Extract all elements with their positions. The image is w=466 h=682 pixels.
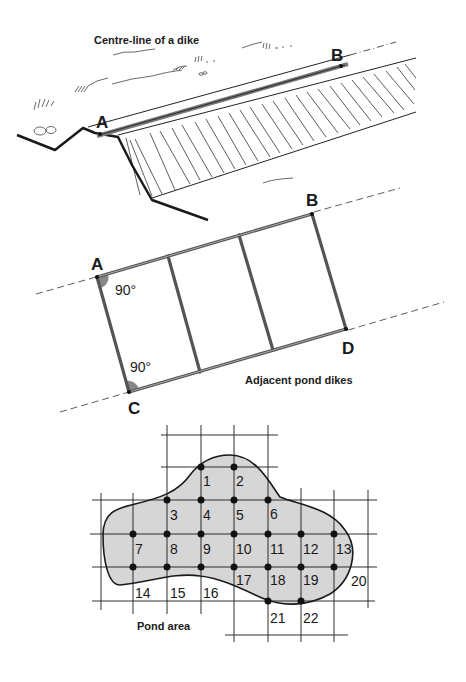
- grid-label: 12: [303, 541, 319, 557]
- grid-label: 6: [270, 506, 278, 522]
- dike-centre-line-caption: Centre-line of a dike: [94, 34, 199, 46]
- grid-label: 2: [236, 473, 244, 489]
- angle-c-label: 90°: [130, 359, 151, 375]
- grid-label: 15: [170, 585, 186, 601]
- grid-label: 20: [351, 573, 367, 589]
- diagram-canvas: Centre-line of a dike: [0, 0, 466, 682]
- dike-point-b-label: B: [331, 46, 343, 65]
- grid-label: 14: [135, 585, 151, 601]
- adjacent-pond-dikes-caption: Adjacent pond dikes: [245, 374, 353, 386]
- grid-label: 5: [236, 507, 244, 523]
- grid-label: 11: [270, 541, 285, 557]
- angle-a-label: 90°: [115, 282, 136, 298]
- grid-label: 4: [203, 507, 211, 523]
- grid-label: 10: [236, 541, 252, 557]
- grid-label: 3: [170, 507, 178, 523]
- grid-label: 7: [135, 541, 143, 557]
- slope-hatching: [126, 64, 416, 196]
- grid-label: 18: [270, 572, 286, 588]
- dike-perspective-figure: Centre-line of a dike: [17, 34, 416, 220]
- pond-point-b-label: B: [306, 191, 318, 210]
- pond-area-caption: Pond area: [137, 620, 191, 632]
- grid-label: 16: [203, 585, 219, 601]
- dike-point-a-label: A: [96, 113, 108, 132]
- grid-label: 19: [303, 572, 319, 588]
- grid-label: 9: [203, 541, 211, 557]
- pond-point-a-label: A: [91, 255, 103, 274]
- pond-point-c-label: C: [128, 399, 140, 418]
- grid-label: 17: [236, 572, 252, 588]
- grid-label: 13: [336, 541, 352, 557]
- grid-label: 22: [303, 610, 319, 626]
- grid-label: 21: [270, 610, 286, 626]
- grid-label: 8: [170, 541, 178, 557]
- pond-point-d-label: D: [342, 339, 354, 358]
- pond-area-figure: 1 2 3 4 5 6 7 8 9 10 11 12 13 14 15 16 1…: [90, 425, 377, 642]
- grid-label: 1: [203, 473, 211, 489]
- adjacent-pond-dikes-figure: A B C D 90° 90° Adjacent pond dikes: [36, 188, 444, 418]
- grass-sketch-marks: [34, 42, 293, 183]
